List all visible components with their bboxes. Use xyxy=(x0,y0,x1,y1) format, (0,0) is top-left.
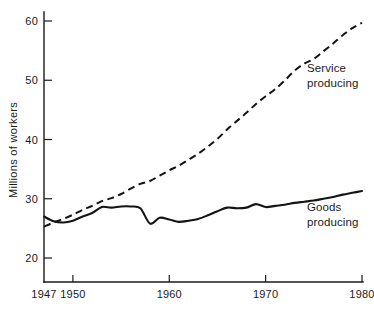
axes-group xyxy=(44,12,363,282)
y-axis-ticks: 2030405060 xyxy=(25,15,52,264)
series-label-service-line2: producing xyxy=(307,77,358,89)
series-label-goods: Goods producing xyxy=(307,201,358,228)
series-path-service-producing xyxy=(44,23,362,227)
x-tick-label-1970: 1970 xyxy=(253,288,278,300)
x-tick-label-1980: 1980 xyxy=(349,288,374,300)
series-label-goods-line2: producing xyxy=(307,216,358,228)
x-tick-label-1950: 1950 xyxy=(60,288,85,300)
x-axis-ticks: 19471950196019701980 xyxy=(31,275,374,300)
series-group xyxy=(44,23,362,227)
series-label-goods-line1: Goods xyxy=(307,201,342,213)
x-tick-label-1947: 1947 xyxy=(31,288,56,300)
y-tick-label-40: 40 xyxy=(25,134,38,146)
x-tick-label-1960: 1960 xyxy=(157,288,182,300)
y-tick-label-60: 60 xyxy=(25,15,38,27)
y-tick-label-20: 20 xyxy=(25,252,38,264)
y-tick-label-30: 30 xyxy=(25,193,38,205)
chart-container: 2030405060 19471950196019701980 Millions… xyxy=(0,0,374,311)
y-axis-title: Millions of workers xyxy=(7,102,19,198)
line-chart: 2030405060 19471950196019701980 Millions… xyxy=(0,0,374,311)
series-label-service: Service producing xyxy=(307,62,358,89)
series-label-service-line1: Service xyxy=(307,62,346,74)
y-tick-label-50: 50 xyxy=(25,74,38,86)
